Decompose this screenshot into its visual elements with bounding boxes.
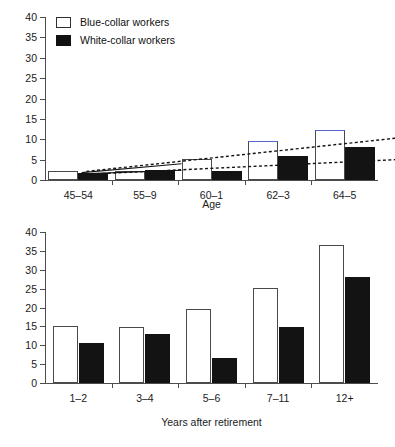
bar-white-collar <box>279 327 304 383</box>
age-x-axis <box>45 180 378 181</box>
y-tick-label: 10 <box>9 340 37 350</box>
bar-blue-collar <box>115 171 145 180</box>
age-axis-title: Age <box>45 198 378 210</box>
y-tick-label: 20 <box>9 303 37 313</box>
y-tick-label: 5 <box>9 359 37 369</box>
y-tick-label: 35 <box>9 246 37 256</box>
years-y-axis <box>45 232 46 384</box>
bar-white-collar <box>79 343 104 383</box>
bar-white-collar <box>212 171 242 180</box>
panel-years-chart: 0510152025303540 1–23–45–67–1112+ Years … <box>0 220 395 447</box>
y-tick <box>40 232 45 233</box>
age-y-axis <box>45 17 46 181</box>
years-plot-area: 0510152025303540 1–23–45–67–1112+ <box>45 232 378 384</box>
bar-white-collar <box>278 156 308 180</box>
y-tick-label: 25 <box>9 73 37 83</box>
panel-age-chart: Blue-collar workers White-collar workers… <box>0 0 395 220</box>
x-tick <box>112 384 113 388</box>
y-tick <box>40 160 45 161</box>
y-tick-label: 15 <box>9 114 37 124</box>
x-tick <box>311 181 312 185</box>
y-tick <box>40 289 45 290</box>
x-tick-label: 1–2 <box>45 393 112 404</box>
y-tick <box>40 99 45 100</box>
years-x-axis <box>45 383 378 384</box>
y-tick <box>40 251 45 252</box>
y-tick <box>40 58 45 59</box>
bar-blue-collar <box>319 245 344 383</box>
y-tick-label: 40 <box>9 227 37 237</box>
y-tick <box>40 119 45 120</box>
x-tick <box>178 384 179 388</box>
bar-white-collar <box>145 170 175 180</box>
y-tick <box>40 78 45 79</box>
y-tick-label: 10 <box>9 134 37 144</box>
y-tick <box>40 383 45 384</box>
y-tick <box>40 308 45 309</box>
y-tick-label: 30 <box>9 53 37 63</box>
y-tick-label: 25 <box>9 284 37 294</box>
x-tick-label: 7–11 <box>245 393 312 404</box>
x-tick <box>245 384 246 388</box>
y-tick-label: 40 <box>9 12 37 22</box>
x-tick-label: 5–6 <box>178 393 245 404</box>
bar-blue-collar <box>315 130 345 180</box>
bar-blue-collar <box>48 171 78 180</box>
y-tick <box>40 364 45 365</box>
y-tick-label: 35 <box>9 32 37 42</box>
x-tick <box>178 181 179 185</box>
x-tick <box>245 181 246 185</box>
y-tick-label: 0 <box>9 378 37 388</box>
bar-blue-collar <box>253 288 278 383</box>
y-tick <box>40 37 45 38</box>
years-axis-title: Years after retirement <box>45 416 378 428</box>
bar-blue-collar <box>53 326 78 383</box>
y-tick <box>40 17 45 18</box>
bar-blue-collar <box>248 141 278 180</box>
y-tick-label: 5 <box>9 155 37 165</box>
y-tick-label: 0 <box>9 175 37 185</box>
x-tick-label: 12+ <box>311 393 378 404</box>
y-tick <box>40 270 45 271</box>
age-plot-area: 0510152025303540 45–5455–960–162–364–5 <box>45 17 378 181</box>
bar-white-collar <box>345 147 375 180</box>
bar-blue-collar <box>119 327 144 383</box>
x-tick <box>112 181 113 185</box>
bar-blue-collar <box>186 309 211 383</box>
y-tick <box>40 326 45 327</box>
y-tick-label: 30 <box>9 265 37 275</box>
y-tick <box>40 139 45 140</box>
bar-white-collar <box>145 334 170 383</box>
y-tick-label: 20 <box>9 94 37 104</box>
y-tick <box>40 345 45 346</box>
bar-blue-collar <box>182 159 212 180</box>
y-tick-label: 15 <box>9 321 37 331</box>
bar-white-collar <box>212 358 237 383</box>
bar-white-collar <box>345 277 370 383</box>
bar-white-collar <box>78 173 108 180</box>
x-tick <box>311 384 312 388</box>
x-tick-label: 3–4 <box>112 393 179 404</box>
figure-two-panel-bar-charts: Blue-collar workers White-collar workers… <box>0 0 395 447</box>
y-tick <box>40 180 45 181</box>
